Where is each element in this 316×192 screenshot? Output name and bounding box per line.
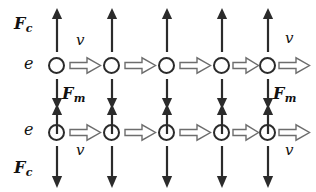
electron-particle [213, 124, 230, 141]
magnetic-force-label-left: Fm [62, 86, 85, 104]
electron-particle [259, 124, 276, 141]
velocity-block-arrow [279, 57, 310, 74]
coulomb-force-subscript: c [26, 166, 33, 179]
electron-particle [158, 124, 175, 141]
force-arrow-down [105, 146, 119, 188]
velocity-label-bottom-left: v [76, 143, 84, 158]
force-arrow-down [261, 146, 275, 188]
electron-particle [213, 57, 230, 74]
electron-particle [48, 57, 65, 74]
velocity-block-arrow [180, 124, 211, 141]
coulomb-force-symbol: F [14, 158, 25, 177]
velocity-label-top-right: v [285, 31, 293, 46]
coulomb-force-label-top: Fc [14, 16, 32, 34]
velocity-label-bottom-right: v [285, 143, 293, 158]
velocity-block-arrow [180, 57, 211, 74]
force-arrow-up [160, 8, 174, 52]
coulomb-force-label-bottom: Fc [14, 160, 32, 178]
electron-particle [48, 124, 65, 141]
velocity-block-arrow [279, 124, 310, 141]
force-arrow-up [105, 8, 119, 52]
velocity-block-arrow [70, 124, 101, 141]
velocity-block-arrow [233, 57, 259, 74]
velocity-block-arrow [125, 57, 156, 74]
velocity-label-top-left: v [76, 33, 84, 48]
velocity-block-arrow [70, 57, 101, 74]
force-arrow-up [215, 8, 229, 52]
magnetic-force-subscript: m [285, 92, 297, 105]
electron-label-top: e [24, 56, 33, 72]
magnetic-force-symbol: F [62, 84, 73, 103]
magnetic-force-subscript: m [74, 92, 86, 105]
physics-diagram-canvas: e [0, 0, 316, 192]
electron-label-bottom: e [24, 122, 33, 138]
magnetic-force-label-right: Fm [273, 86, 296, 104]
electron-particle [103, 124, 120, 141]
electron-particle [259, 57, 276, 74]
coulomb-force-subscript: c [26, 22, 33, 35]
force-arrow-down [160, 146, 174, 188]
coulomb-force-symbol: F [14, 14, 25, 33]
force-arrow-down [215, 146, 229, 188]
force-arrow-up [50, 8, 64, 52]
magnetic-force-symbol: F [273, 84, 284, 103]
force-arrow-down [50, 146, 64, 188]
velocity-block-arrow [125, 124, 156, 141]
velocity-block-arrow [233, 124, 259, 141]
electron-particle [103, 57, 120, 74]
force-arrow-up [261, 8, 275, 52]
electron-particle [158, 57, 175, 74]
